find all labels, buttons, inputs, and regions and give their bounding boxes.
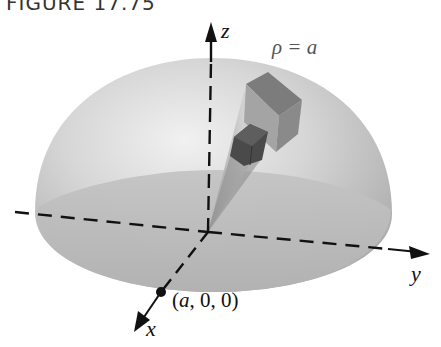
surface-label: ρ = a [272, 37, 317, 58]
x-axis-label: x [146, 318, 156, 340]
y-axis-label: y [411, 263, 421, 285]
figure: FIGURE 17.75 [0, 0, 441, 347]
z-axis-label: z [221, 20, 230, 42]
point-a00 [156, 287, 166, 297]
y-arrow-icon [409, 246, 430, 259]
z-arrow-icon [205, 22, 217, 42]
base-disk [37, 170, 391, 292]
point-label-rest: , 0, 0) [190, 288, 239, 312]
point-label-a: a [179, 288, 190, 312]
point-label-open: ( [172, 288, 179, 312]
point-label: (a, 0, 0) [172, 290, 239, 311]
